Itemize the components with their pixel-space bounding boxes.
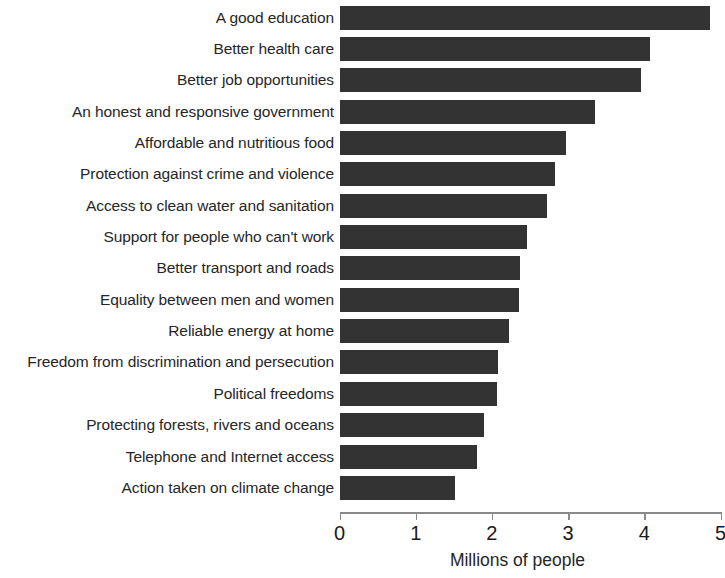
bar-track <box>340 162 556 186</box>
bar <box>340 100 595 124</box>
x-axis-tick <box>568 512 570 520</box>
bar-track <box>340 131 566 155</box>
bar-category-label: A good education <box>216 9 334 27</box>
bar-category-label: Protecting forests, rivers and oceans <box>86 416 334 434</box>
x-axis-line <box>340 512 721 514</box>
bar-track <box>340 6 710 30</box>
bar-track <box>340 288 520 312</box>
plot-area: A good educationBetter health careBetter… <box>0 0 725 512</box>
bar-row: Telephone and Internet access <box>0 441 725 472</box>
x-axis-tick-label: 4 <box>639 522 650 545</box>
x-axis-tick <box>340 512 342 520</box>
bar-row: Better health care <box>0 33 725 64</box>
bar-category-label: An honest and responsive government <box>72 103 334 121</box>
bar-category-label: Reliable energy at home <box>168 322 334 340</box>
bar-category-label: Affordable and nutritious food <box>135 134 334 152</box>
bar-track <box>340 256 521 280</box>
bar-row: Affordable and nutritious food <box>0 127 725 158</box>
bar-track <box>340 68 642 92</box>
bar <box>340 256 521 280</box>
x-axis-tick-label: 2 <box>486 522 497 545</box>
x-axis-tick-label: 3 <box>563 522 574 545</box>
bar-track <box>340 350 498 374</box>
bar-row: Equality between men and women <box>0 284 725 315</box>
x-axis-tick-label: 1 <box>410 522 421 545</box>
x-axis-tick <box>492 512 494 520</box>
bar-category-label: Freedom from discrimination and persecut… <box>27 353 334 371</box>
bar-track <box>340 100 595 124</box>
bar <box>340 162 556 186</box>
x-axis-tick <box>416 512 418 520</box>
bar-row: Political freedoms <box>0 378 725 409</box>
bar-row: Protecting forests, rivers and oceans <box>0 410 725 441</box>
x-axis-title: Millions of people <box>0 550 725 571</box>
bar-category-label: Access to clean water and sanitation <box>86 197 334 215</box>
bar-row: Action taken on climate change <box>0 472 725 503</box>
bar-track <box>340 382 498 406</box>
bar <box>340 6 710 30</box>
bar-category-label: Better health care <box>213 40 334 58</box>
bar <box>340 350 498 374</box>
bar-row: Better transport and roads <box>0 253 725 284</box>
bar <box>340 68 642 92</box>
bar-track <box>340 225 527 249</box>
bar <box>340 319 509 343</box>
x-axis-tick-label: 5 <box>715 522 725 545</box>
bar-category-label: Political freedoms <box>213 385 334 403</box>
bar-track <box>340 476 456 500</box>
bar-row: A good education <box>0 2 725 33</box>
x-axis-title-text: Millions of people <box>450 550 585 571</box>
bar <box>340 37 651 61</box>
bar-category-label: Support for people who can't work <box>103 228 334 246</box>
bar <box>340 413 485 437</box>
bar-row: Reliable energy at home <box>0 316 725 347</box>
bar-category-label: Action taken on climate change <box>122 479 334 497</box>
bar <box>340 131 566 155</box>
bar-category-label: Equality between men and women <box>100 291 334 309</box>
bar-track <box>340 445 477 469</box>
bar-row: Support for people who can't work <box>0 221 725 252</box>
bar-row: Access to clean water and sanitation <box>0 190 725 221</box>
bar-category-label: Protection against crime and violence <box>80 165 334 183</box>
bar-row: An honest and responsive government <box>0 96 725 127</box>
bar-track <box>340 413 485 437</box>
bar-track <box>340 319 509 343</box>
bar-track <box>340 37 651 61</box>
bar <box>340 476 456 500</box>
bar-category-label: Telephone and Internet access <box>126 448 334 466</box>
bar-row: Better job opportunities <box>0 65 725 96</box>
bar-chart: A good educationBetter health careBetter… <box>0 0 725 578</box>
x-axis-tick <box>721 512 723 520</box>
bar-category-label: Better job opportunities <box>177 71 334 89</box>
x-axis-tick-label: 0 <box>334 522 345 545</box>
bar-row: Protection against crime and violence <box>0 159 725 190</box>
bar <box>340 445 477 469</box>
bar <box>340 288 520 312</box>
bar-track <box>340 194 547 218</box>
bar-row: Freedom from discrimination and persecut… <box>0 347 725 378</box>
bar-category-label: Better transport and roads <box>157 259 334 277</box>
bar <box>340 225 527 249</box>
bar <box>340 194 547 218</box>
bar <box>340 382 498 406</box>
x-axis-tick <box>644 512 646 520</box>
